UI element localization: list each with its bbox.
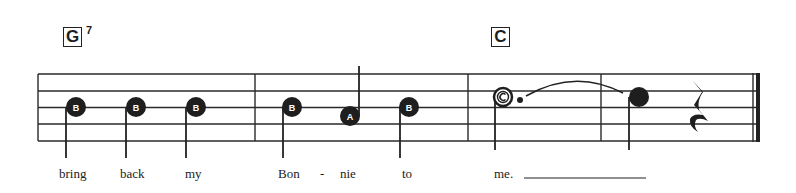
svg-text:B: B — [193, 103, 200, 113]
final-barline — [756, 73, 760, 142]
lyric: back — [120, 166, 145, 182]
svg-text:B: B — [406, 103, 413, 113]
dot — [517, 97, 523, 103]
note-c-half — [494, 88, 512, 106]
lyric: my — [185, 166, 202, 182]
note-b-2: B — [126, 97, 146, 117]
lyric: me. — [494, 166, 513, 182]
tie — [526, 81, 623, 96]
note-b-5: B — [399, 97, 419, 117]
svg-text:B: B — [289, 103, 296, 113]
svg-text:B: B — [73, 103, 80, 113]
lyric: to — [402, 166, 412, 182]
lyric: bring — [59, 166, 86, 182]
note-b-3: B — [186, 97, 206, 117]
svg-text:B: B — [133, 103, 140, 113]
svg-text:A: A — [347, 112, 354, 122]
note-a: A — [340, 106, 360, 126]
hyphen: - — [320, 166, 324, 182]
note-b-4: B — [282, 97, 302, 117]
note-c-quarter — [629, 87, 649, 107]
lyric: nie — [340, 166, 356, 182]
note-b-1: B — [66, 97, 86, 117]
lyric: Bon — [278, 166, 300, 182]
staff: B B B B A B — [0, 0, 796, 193]
